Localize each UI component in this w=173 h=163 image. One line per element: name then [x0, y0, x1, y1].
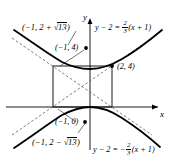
fraction-two-thirds-neg: 23	[126, 142, 131, 157]
point-dot-minus1-4	[84, 46, 88, 50]
asym-neg-sign: −	[120, 145, 126, 154]
label-upper-focus-point: (−1, 2 + √13)	[22, 22, 70, 32]
asym-neg-rhs: (x + 1)	[132, 145, 155, 154]
label-lower-focus-point: (−1, 2 − √13)	[32, 137, 80, 147]
asym-pos-lhs: y − 2 =	[95, 23, 122, 32]
point-dot-minus1-0	[83, 120, 87, 124]
label-upper-focus-prefix: (−1, 2 +	[22, 22, 54, 32]
label-asymptote-positive: y − 2 = 23(x + 1)	[95, 20, 151, 35]
hyperbola-figure: y x (−1, 2 + √13) (−1, 4) (2, 4) (−1, 0)…	[0, 0, 173, 163]
y-axis-label: y	[83, 13, 87, 22]
label-point-minus1-0: (−1, 0)	[55, 118, 78, 126]
asym-neg-lhs: y − 2 =	[93, 145, 120, 154]
leader-line-upper-left	[60, 50, 84, 66]
label-upper-focus-radicand: 13	[57, 22, 67, 32]
label-lower-focus-prefix: (−1, 2 −	[32, 137, 64, 147]
label-lower-focus-radicand: 13	[67, 137, 77, 147]
y-axis	[88, 18, 93, 150]
label-lower-focus-suffix: )	[77, 137, 80, 147]
label-asymptote-negative: y − 2 = −23(x + 1)	[93, 142, 155, 157]
asym-pos-rhs: (x + 1)	[128, 23, 151, 32]
sqrt-icon-lower: √13	[64, 137, 77, 147]
hyperbola-upper-branch	[14, 30, 162, 69]
x-axis-label: x	[160, 110, 164, 119]
label-upper-focus-suffix: )	[67, 22, 70, 32]
asym-neg-num: 2	[126, 142, 131, 149]
label-point-minus1-4: (−1, 4)	[55, 44, 78, 52]
point-dot-2-4	[110, 64, 114, 68]
sqrt-icon: √13	[54, 22, 67, 32]
label-point-2-4: (2, 4)	[117, 63, 135, 71]
asym-neg-den: 3	[126, 149, 131, 157]
